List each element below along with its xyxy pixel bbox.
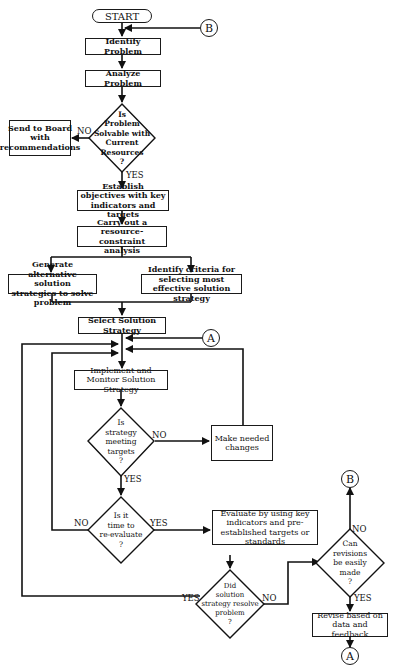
decision-line: problem bbox=[215, 609, 245, 618]
label-no-revisions: NO bbox=[352, 524, 366, 534]
decision-line: targets bbox=[107, 447, 134, 457]
step-analyze-problem: Analyze Problem bbox=[85, 70, 161, 87]
decision-revisions: Can revisions be easily made ? bbox=[322, 538, 378, 588]
decision-line: Is bbox=[118, 418, 125, 428]
connector-a-mid: A bbox=[202, 329, 220, 347]
decision-line: Is it bbox=[114, 511, 129, 521]
connector-b-top: B bbox=[200, 19, 218, 37]
decision-line: ? bbox=[120, 157, 124, 167]
connector-label: A bbox=[346, 650, 354, 663]
decision-line: revisions bbox=[333, 549, 367, 559]
step-revise: Revise based on data and feedback bbox=[312, 613, 388, 637]
start-terminal: START bbox=[92, 9, 152, 23]
step-generate-alternatives: Generate alternative solution strategies… bbox=[8, 274, 97, 294]
step-label: Generate alternative solution strategies… bbox=[11, 260, 94, 308]
step-label: Send to Board with recommendations bbox=[0, 124, 80, 153]
label-no-reevaluate: NO bbox=[74, 518, 88, 528]
decision-line: ? bbox=[348, 577, 352, 587]
label-no-resolve: NO bbox=[262, 593, 276, 603]
label-yes-solvable: YES bbox=[126, 170, 144, 180]
decision-line: be easily bbox=[333, 558, 366, 568]
decision-line: strategy bbox=[105, 428, 136, 438]
decision-line: Solvable with bbox=[94, 129, 150, 139]
step-label: Revise based on data and feedback bbox=[315, 611, 385, 640]
decision-line: meeting bbox=[105, 437, 136, 447]
decision-line: ? bbox=[119, 540, 123, 550]
decision-line: Problem bbox=[104, 119, 139, 129]
decision-line: Current bbox=[105, 138, 138, 148]
label-yes-reevaluate: YES bbox=[150, 518, 168, 528]
step-label: Select Solution Strategy bbox=[81, 316, 163, 335]
decision-solvable: Is Problem Solvable with Current Resourc… bbox=[92, 110, 152, 166]
step-identify-criteria: Identify criteria for selecting most eff… bbox=[141, 274, 242, 294]
decision-line: re-evaluate bbox=[100, 530, 143, 540]
step-select-strategy: Select Solution Strategy bbox=[78, 317, 166, 334]
decision-line: Is bbox=[118, 110, 126, 120]
connector-b-right: B bbox=[341, 470, 359, 488]
step-evaluate: Evaluate by using key indicators and pre… bbox=[212, 510, 318, 545]
connector-label: B bbox=[205, 22, 213, 35]
decision-line: ? bbox=[228, 618, 232, 627]
step-label: Make needed changes bbox=[214, 434, 270, 453]
start-label: START bbox=[105, 11, 139, 22]
step-label: Identify criteria for selecting most eff… bbox=[144, 265, 239, 303]
step-resource-analysis: Carry out a resource-constraint analysis bbox=[77, 226, 167, 247]
step-make-changes: Make needed changes bbox=[211, 425, 273, 461]
label-yes-meeting: YES bbox=[124, 474, 142, 484]
step-establish-objectives: Establish objectives with key indicators… bbox=[77, 190, 169, 211]
connector-label: B bbox=[346, 473, 354, 486]
decision-resolve: Did solution strategy resolve problem ? bbox=[198, 580, 262, 628]
decision-line: made bbox=[340, 568, 361, 578]
decision-line: solution bbox=[216, 591, 244, 600]
step-label: Establish objectives with key indicators… bbox=[80, 182, 166, 220]
step-label: Identify Problem bbox=[88, 37, 158, 56]
step-label: Analyze Problem bbox=[88, 69, 158, 88]
decision-line: time to bbox=[108, 521, 135, 531]
step-label: Implement and Monitor Solution Strategy bbox=[77, 366, 165, 395]
decision-line: Resources bbox=[100, 148, 143, 158]
connector-a-bottom: A bbox=[341, 647, 359, 665]
step-identify-problem: Identify Problem bbox=[85, 38, 161, 55]
label-no-solvable: NO bbox=[77, 126, 91, 136]
decision-line: Did bbox=[224, 582, 236, 591]
label-no-meeting: NO bbox=[152, 430, 166, 440]
step-implement-monitor: Implement and Monitor Solution Strategy bbox=[74, 370, 168, 390]
decision-reevaluate: Is it time to re-evaluate ? bbox=[96, 510, 146, 550]
step-label: Carry out a resource-constraint analysis bbox=[80, 218, 164, 256]
connector-label: A bbox=[207, 332, 215, 345]
decision-line: strategy resolve bbox=[201, 600, 258, 609]
label-yes-revisions: YES bbox=[354, 593, 372, 603]
step-label: Evaluate by using key indicators and pre… bbox=[215, 509, 315, 547]
label-yes-resolve: YES bbox=[182, 593, 200, 603]
decision-line: ? bbox=[119, 456, 123, 466]
decision-meeting-targets: Is strategy meeting targets ? bbox=[96, 417, 146, 467]
decision-line: Can bbox=[342, 539, 357, 549]
step-send-to-board: Send to Board with recommendations bbox=[9, 120, 71, 156]
